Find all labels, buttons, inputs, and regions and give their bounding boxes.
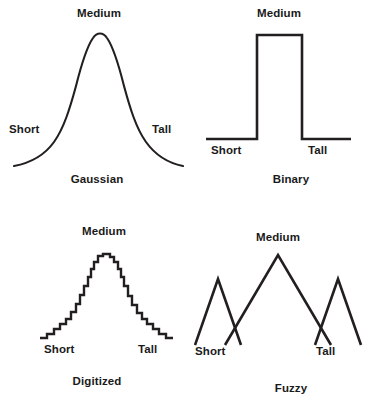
fuzzy-label-medium: Medium bbox=[256, 232, 300, 244]
digitized-caption: Digitized bbox=[0, 376, 194, 388]
fuzzy-caption: Fuzzy bbox=[194, 383, 388, 395]
gaussian-label-short: Short bbox=[9, 124, 40, 136]
fuzzy-triangle-short bbox=[195, 279, 241, 345]
fuzzy-label-short: Short bbox=[195, 346, 226, 358]
gaussian-curve bbox=[14, 34, 183, 167]
fuzzy-triangle-tall bbox=[315, 279, 361, 345]
binary-label-tall: Tall bbox=[308, 145, 327, 157]
digitized-label-tall: Tall bbox=[138, 344, 157, 356]
digitized-staircase bbox=[40, 254, 173, 338]
panel-gaussian: Medium Short Tall Gaussian bbox=[0, 0, 194, 206]
binary-pulse bbox=[206, 35, 351, 139]
panel-digitized: Medium Short Tall Digitized bbox=[0, 207, 194, 413]
gaussian-label-medium: Medium bbox=[77, 8, 121, 20]
panel-binary: Medium Short Tall Binary bbox=[194, 0, 388, 206]
panel-fuzzy: Medium Short Tall Fuzzy bbox=[194, 207, 388, 413]
binary-label-short: Short bbox=[211, 145, 242, 157]
digitized-label-short: Short bbox=[44, 344, 75, 356]
fuzzy-triangle-medium bbox=[225, 255, 331, 345]
digitized-label-medium: Medium bbox=[82, 226, 126, 238]
binary-label-medium: Medium bbox=[257, 8, 301, 20]
gaussian-label-tall: Tall bbox=[152, 124, 171, 136]
gaussian-caption: Gaussian bbox=[0, 174, 194, 186]
membership-function-figure: Medium Short Tall Gaussian Medium Short … bbox=[0, 0, 388, 413]
binary-caption: Binary bbox=[194, 174, 388, 186]
fuzzy-label-tall: Tall bbox=[316, 346, 335, 358]
